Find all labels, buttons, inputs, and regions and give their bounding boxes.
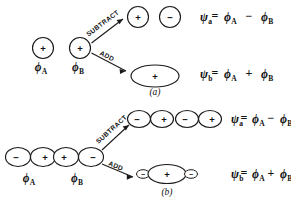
orbital-label-phi-b: ϕB xyxy=(71,172,83,187)
minus-operator: − xyxy=(246,9,253,23)
psi-term: ψa xyxy=(200,10,212,26)
lobe-sign-plus: + xyxy=(161,114,167,125)
phi-glyph: ϕ xyxy=(35,61,42,74)
phi-subscript: B xyxy=(268,74,273,83)
panel-caption-a: (a) xyxy=(149,87,160,98)
lobe-sign-plus: + xyxy=(135,12,141,23)
phi-subscript: A xyxy=(231,74,237,83)
lobe-sign-plus: + xyxy=(164,169,170,180)
plus-operator: + xyxy=(246,66,253,80)
panel-a-equation-antibonding: ψa = ϕA − ϕB xyxy=(200,9,273,26)
panel-a-input-phi-a: + ϕA xyxy=(33,38,54,77)
panel-caption-b: (b) xyxy=(161,187,172,198)
phi-glyph: ϕ xyxy=(261,67,268,81)
equals-sign: = xyxy=(241,111,248,125)
phi-b-term: ϕB xyxy=(261,10,273,26)
phi-glyph: ϕ xyxy=(280,112,287,126)
phi-glyph: ϕ xyxy=(261,10,268,24)
lobe-sign-plus: + xyxy=(61,152,67,163)
phi-glyph: ϕ xyxy=(23,172,30,185)
panel-b: − + ϕA + − ϕB SUBTRACT xyxy=(6,111,292,199)
orbital-label-phi-a: ϕA xyxy=(35,61,48,76)
figure-canvas: + ϕA + ϕB SUBTRACT xyxy=(0,0,291,208)
panel-b-result-bonding: − + − xyxy=(137,165,198,184)
lobe-sign-minus: − xyxy=(134,114,140,125)
molecular-orbital-figure: + ϕA + ϕB SUBTRACT xyxy=(0,0,291,208)
phi-subscript: B xyxy=(78,178,83,187)
lobe-sign-minus: − xyxy=(167,12,173,23)
phi-a-term: ϕA xyxy=(224,10,237,26)
phi-glyph: ϕ xyxy=(224,10,231,24)
panel-b-add-arrow: ADD xyxy=(102,159,133,179)
equals-sign: = xyxy=(212,9,219,23)
phi-subscript: B xyxy=(287,174,291,183)
lobe-sign-plus: + xyxy=(77,43,83,54)
phi-b-term: ϕB xyxy=(280,167,291,183)
phi-a-term: ϕA xyxy=(224,67,237,83)
minus-operator: − xyxy=(268,111,275,125)
phi-glyph: ϕ xyxy=(280,167,287,181)
panel-a-subtract-arrow: SUBTRACT xyxy=(85,8,123,43)
phi-glyph: ϕ xyxy=(252,112,259,126)
phi-subscript: A xyxy=(30,178,36,187)
phi-subscript: B xyxy=(79,67,84,76)
lobe-sign-minus: − xyxy=(13,152,19,163)
phi-glyph: ϕ xyxy=(224,67,231,81)
lobe-sign-plus: + xyxy=(42,152,48,163)
lobe-sign-plus: + xyxy=(209,114,215,125)
orbital-label-phi-a: ϕA xyxy=(23,172,36,187)
phi-subscript: B xyxy=(287,119,291,128)
panel-b-input-phi-a: − + ϕA xyxy=(6,148,56,188)
lobe-sign-minus: − xyxy=(90,152,96,163)
phi-subscript: A xyxy=(231,17,237,26)
lobe-sign-minus: − xyxy=(189,171,193,178)
panel-b-equation-antibonding: ψa = ϕA − ϕB xyxy=(231,111,291,128)
lobe-sign-minus: − xyxy=(141,171,145,178)
phi-glyph: ϕ xyxy=(72,61,79,74)
subtract-arrow-label: SUBTRACT xyxy=(85,8,120,37)
panel-b-result-antibonding: − + − + xyxy=(128,111,222,128)
lobe-sign-minus: − xyxy=(182,114,188,125)
phi-a-term: ϕA xyxy=(252,112,265,128)
panel-b-equation-bonding: ψb = ϕA + ϕB xyxy=(231,166,291,183)
add-arrow-label: ADD xyxy=(99,49,116,62)
lobe-sign-plus: + xyxy=(152,71,158,82)
phi-glyph: ϕ xyxy=(71,172,78,185)
lobe-sign-plus: + xyxy=(40,43,46,54)
phi-a-term: ϕA xyxy=(252,167,265,183)
plus-operator: + xyxy=(268,166,275,180)
phi-b-term: ϕB xyxy=(261,67,273,83)
phi-b-term: ϕB xyxy=(280,112,291,128)
panel-a: + ϕA + ϕB SUBTRACT xyxy=(33,7,274,99)
panel-a-result-bonding: + xyxy=(131,65,179,87)
subtract-arrow-label: SUBTRACT xyxy=(94,113,128,144)
phi-subscript: B xyxy=(268,17,273,26)
phi-subscript: A xyxy=(259,174,265,183)
equals-sign: = xyxy=(212,66,219,80)
phi-subscript: A xyxy=(259,119,265,128)
phi-subscript: A xyxy=(42,67,48,76)
panel-b-input-phi-b: + − ϕB xyxy=(54,148,104,188)
panel-a-add-arrow: ADD xyxy=(92,49,127,74)
orbital-label-phi-b: ϕB xyxy=(72,61,84,76)
panel-b-subtract-arrow: SUBTRACT xyxy=(94,113,129,150)
equals-sign: = xyxy=(241,166,248,180)
panel-a-input-phi-b: + ϕB xyxy=(70,38,91,77)
panel-a-equation-bonding: ψb = ϕA + ϕB xyxy=(200,66,273,83)
panel-a-result-antibonding: + − xyxy=(128,7,181,28)
phi-glyph: ϕ xyxy=(252,167,259,181)
